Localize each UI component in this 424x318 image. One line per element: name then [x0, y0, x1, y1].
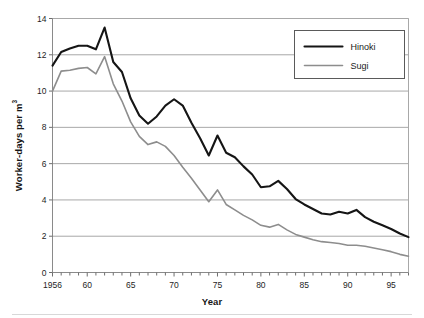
- y-axis-tick-label: 10: [37, 86, 47, 96]
- x-axis-tick-label: 70: [169, 280, 179, 290]
- y-axis-tick-label: 4: [42, 195, 47, 205]
- y-axis-tick-label: 8: [42, 122, 47, 132]
- y-axis-tick-labels: 02468101214: [37, 14, 47, 278]
- y-axis-tick-label: 12: [37, 50, 47, 60]
- x-axis-ticks: [53, 273, 409, 277]
- x-axis-tick-label: 1956: [43, 280, 62, 290]
- y-axis-title: Worker-days per m3: [13, 66, 24, 226]
- x-axis-tick-label: 60: [82, 280, 92, 290]
- y-axis-tick-label: 0: [42, 268, 47, 278]
- x-axis-title: Year: [0, 296, 424, 307]
- y-axis-tick-label: 2: [42, 231, 47, 241]
- legend-label-sugi: Sugi: [351, 61, 369, 71]
- chart-legend: HinokiSugi: [295, 31, 405, 79]
- x-axis-tick-label: 80: [256, 280, 266, 290]
- x-axis-tick-label: 95: [386, 280, 396, 290]
- x-axis-tick-label: 75: [213, 280, 223, 290]
- series-line-sugi: [53, 57, 409, 257]
- bottom-divider: [12, 314, 412, 315]
- y-axis-title-exponent: 3: [11, 100, 18, 104]
- line-chart: 02468101214 19566065707580859095 HinokiS…: [0, 0, 424, 318]
- y-axis-title-text: Worker-days per m: [13, 104, 24, 192]
- x-axis-tick-label: 90: [343, 280, 353, 290]
- x-axis-tick-label: 85: [300, 280, 310, 290]
- x-axis-tick-labels: 19566065707580859095: [43, 280, 396, 290]
- legend-box: [295, 31, 405, 79]
- y-axis-tick-label: 6: [42, 159, 47, 169]
- chart-figure: 02468101214 19566065707580859095 HinokiS…: [0, 0, 424, 318]
- legend-label-hinoki: Hinoki: [351, 42, 376, 52]
- x-axis-tick-label: 65: [126, 280, 136, 290]
- y-axis-tick-label: 14: [37, 14, 47, 24]
- y-axis-ticks: [49, 19, 53, 273]
